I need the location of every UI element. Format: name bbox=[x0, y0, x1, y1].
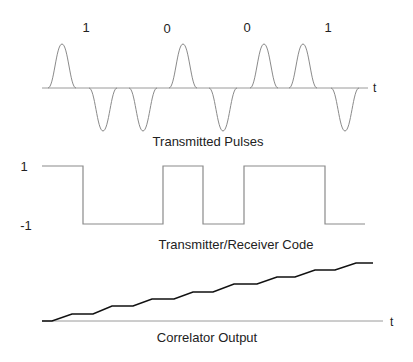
pulse-correlation-diagram: 1 0 0 1 t Transmitted Pulses 1 -1 Transm… bbox=[0, 0, 413, 362]
bit-label: 0 bbox=[243, 20, 250, 35]
pulse-negative bbox=[209, 88, 237, 131]
pulse-negative bbox=[89, 88, 117, 131]
pulse-negative bbox=[331, 88, 359, 131]
pulse-positive bbox=[250, 44, 278, 88]
transmitted-pulses-caption: Transmitted Pulses bbox=[153, 134, 264, 149]
code-low-label: -1 bbox=[20, 218, 32, 233]
time-axis-label: t bbox=[373, 81, 377, 95]
code-caption: Transmitter/Receiver Code bbox=[159, 237, 314, 252]
pulse-positive bbox=[48, 44, 76, 88]
pulse-positive bbox=[169, 44, 197, 88]
pulse-positive bbox=[289, 44, 317, 88]
correlator-output-staircase bbox=[42, 263, 373, 321]
bit-label: 1 bbox=[82, 20, 89, 35]
pulse-negative bbox=[129, 88, 157, 131]
transmitter-receiver-code-waveform bbox=[42, 166, 365, 224]
code-high-label: 1 bbox=[20, 159, 27, 174]
correlator-caption: Correlator Output bbox=[157, 330, 258, 345]
bit-label: 0 bbox=[163, 21, 170, 36]
bit-label: 1 bbox=[324, 20, 331, 35]
time-axis-label: t bbox=[390, 315, 394, 329]
